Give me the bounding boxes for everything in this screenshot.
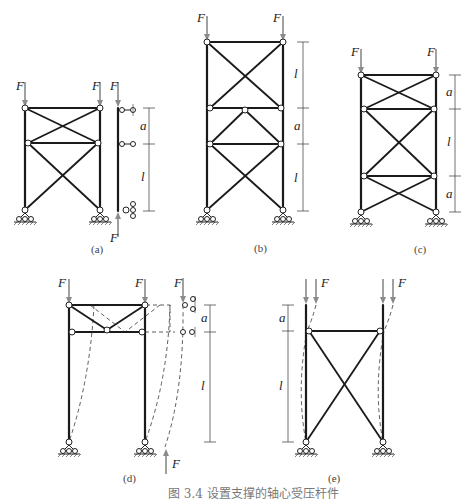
subfigure-label: (b) bbox=[254, 242, 267, 255]
subfigure-label: (d) bbox=[123, 472, 136, 485]
force-label: F bbox=[91, 78, 101, 93]
force-arrow-icon bbox=[303, 279, 309, 304]
pin-support-icon bbox=[14, 207, 37, 225]
pin-support-icon bbox=[196, 207, 219, 225]
force-arrow-icon bbox=[313, 279, 319, 304]
force-arrow-icon bbox=[380, 279, 386, 304]
length-label: l bbox=[447, 134, 451, 149]
force-label: F bbox=[320, 275, 330, 290]
force-label: F bbox=[173, 275, 183, 290]
length-label: l bbox=[279, 378, 283, 393]
force-label: F bbox=[109, 78, 119, 93]
subfigure-label: (e) bbox=[328, 472, 341, 485]
pin-support-icon bbox=[58, 439, 81, 457]
force-label: F bbox=[134, 275, 144, 290]
force-arrow-icon bbox=[66, 279, 72, 304]
length-label: l bbox=[294, 170, 298, 185]
subfigure-d: F F F F a l (d) bbox=[57, 275, 216, 485]
force-label: F bbox=[350, 44, 360, 59]
figure-caption: 图 3.4 设置支撑的轴心受压杆件 bbox=[168, 486, 339, 501]
pin-support-icon bbox=[89, 207, 112, 225]
pin-support-icon bbox=[272, 207, 295, 225]
pin-support-icon bbox=[372, 439, 395, 457]
pin-support-icon bbox=[295, 439, 318, 457]
pin-support-icon bbox=[134, 439, 157, 457]
force-arrow-icon bbox=[163, 449, 169, 474]
spacing-label: a bbox=[140, 118, 147, 133]
subfigure-b: F F l a l (b) bbox=[196, 10, 309, 255]
length-label: l bbox=[294, 66, 298, 81]
spacing-label: a bbox=[201, 310, 208, 325]
spacing-label: a bbox=[446, 186, 453, 201]
force-label: F bbox=[272, 10, 282, 25]
length-label: l bbox=[141, 169, 145, 184]
pin-support-icon bbox=[350, 209, 373, 227]
force-arrow-icon bbox=[390, 279, 396, 304]
force-label: F bbox=[57, 275, 67, 290]
force-label: F bbox=[109, 230, 119, 245]
subfigure-label: (c) bbox=[414, 243, 427, 256]
length-label: l bbox=[201, 378, 205, 393]
figure-canvas: F F F F a l (a) bbox=[0, 0, 472, 504]
force-label: F bbox=[15, 78, 25, 93]
subfigure-e: F F a l (e) bbox=[279, 275, 407, 485]
subfigure-a: F F F F a l (a) bbox=[14, 78, 155, 256]
subfigure-c: F F a l a (c) bbox=[350, 44, 461, 256]
spacing-label: a bbox=[446, 84, 453, 99]
force-label: F bbox=[426, 44, 436, 59]
spacing-label: a bbox=[279, 310, 286, 325]
spacing-label: a bbox=[294, 118, 301, 133]
force-label: F bbox=[196, 10, 206, 25]
pin-support-icon bbox=[425, 209, 448, 227]
force-label: F bbox=[397, 275, 407, 290]
subfigure-label: (a) bbox=[91, 243, 104, 256]
force-label: F bbox=[171, 456, 181, 471]
